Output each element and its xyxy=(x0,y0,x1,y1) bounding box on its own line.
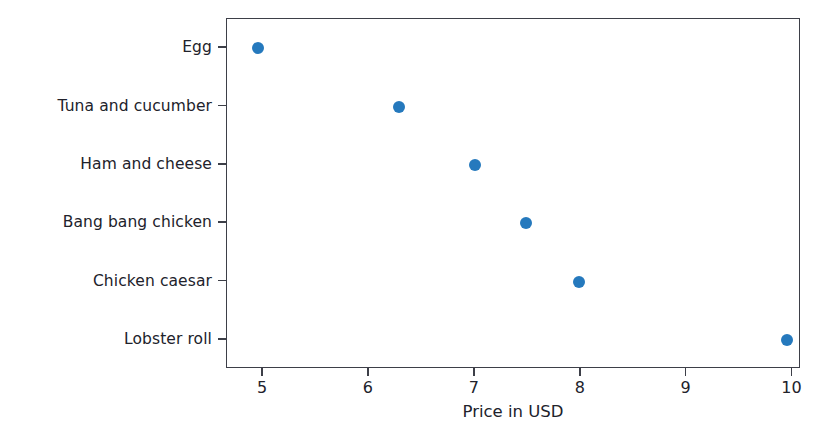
x-axis-tick-label: 5 xyxy=(257,378,267,397)
data-point xyxy=(252,42,264,54)
x-axis-tick-mark xyxy=(685,368,687,376)
y-axis-tick-mark xyxy=(218,163,226,165)
x-axis-tick-mark xyxy=(579,368,581,376)
data-point xyxy=(393,101,405,113)
x-axis-tick-label: 7 xyxy=(469,378,479,397)
x-axis-tick-label: 8 xyxy=(575,378,585,397)
y-axis-tick-label-group: EggTuna and cucumberHam and cheeseBang b… xyxy=(0,18,212,368)
y-axis-tick-label: Chicken caesar xyxy=(93,272,212,290)
y-axis-tick-label: Lobster roll xyxy=(124,330,212,348)
y-axis-tick-mark xyxy=(218,221,226,223)
data-point xyxy=(469,159,481,171)
x-axis-title: Price in USD xyxy=(226,402,800,421)
y-axis-tick-label: Ham and cheese xyxy=(80,155,212,173)
y-axis-tick-label: Egg xyxy=(182,38,212,56)
data-point xyxy=(573,276,585,288)
y-axis-tick-label: Bang bang chicken xyxy=(63,213,212,231)
x-axis-tick-label: 9 xyxy=(681,378,691,397)
data-point xyxy=(781,334,793,346)
x-axis-tick-mark xyxy=(791,368,793,376)
y-axis-tick-mark xyxy=(218,46,226,48)
x-axis-tick-label: 10 xyxy=(781,378,801,397)
y-axis-tick-mark xyxy=(218,105,226,107)
y-axis-tick-label: Tuna and cucumber xyxy=(57,97,212,115)
x-axis-tick-mark xyxy=(367,368,369,376)
scatter-chart-figure: EggTuna and cucumberHam and cheeseBang b… xyxy=(0,0,836,439)
y-axis-tick-mark xyxy=(218,280,226,282)
x-axis-tick-mark xyxy=(261,368,263,376)
x-axis-tick-mark xyxy=(473,368,475,376)
x-axis-tick-label: 6 xyxy=(363,378,373,397)
y-axis-tick-mark xyxy=(218,338,226,340)
data-point xyxy=(520,217,532,229)
plot-area xyxy=(226,18,800,368)
